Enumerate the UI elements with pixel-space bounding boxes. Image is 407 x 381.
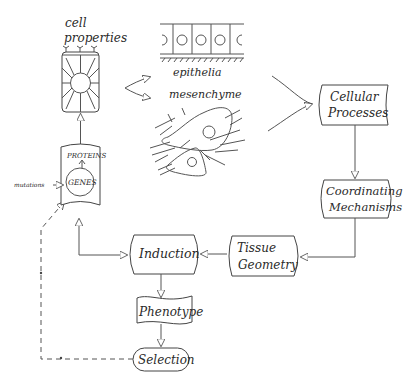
cellular-processes-node: Cellular Processes bbox=[319, 85, 388, 125]
phenotype-node: Phenotype bbox=[137, 296, 203, 324]
epithelia-label: epithelia bbox=[173, 66, 222, 79]
mutations-label: mutations bbox=[14, 181, 44, 188]
induction-label: Induction bbox=[138, 246, 200, 261]
selection-label: Selection bbox=[138, 353, 195, 367]
cellular-processes-label-1: Cellular bbox=[330, 90, 380, 104]
diagram-canvas: cell properties bbox=[0, 0, 407, 381]
edge-coordinating-to-tissue-geometry bbox=[301, 218, 355, 257]
coordinating-mechanisms-label-1: Coordinating bbox=[326, 184, 403, 198]
induction-node: Induction bbox=[130, 235, 200, 274]
genes-label: GENES bbox=[68, 178, 97, 187]
coordinating-mechanisms-node: Coordinating Mechanisms bbox=[321, 180, 403, 218]
epithelia-node: epithelia bbox=[160, 24, 244, 79]
cell-properties-node: cell properties bbox=[62, 16, 127, 112]
proteins-label: PROTEINS bbox=[66, 152, 106, 160]
cell-properties-label-1: cell bbox=[65, 16, 87, 30]
coordinating-mechanisms-label-2: Mechanisms bbox=[328, 200, 402, 214]
mesenchyme-label: mesenchyme bbox=[169, 88, 242, 101]
edges-tissues-to-cellular-processes bbox=[268, 76, 312, 131]
genome-node: PROTEINS GENES mutations bbox=[14, 144, 106, 205]
edge-induction-genes bbox=[79, 219, 127, 255]
tissue-geometry-node: Tissue Geometry bbox=[229, 236, 298, 276]
phenotype-label: Phenotype bbox=[138, 305, 203, 319]
receptor-icons bbox=[63, 46, 97, 52]
mesenchyme-node: mesenchyme bbox=[150, 88, 245, 176]
edges-cell-to-tissues bbox=[125, 77, 150, 98]
selection-node: Selection bbox=[133, 348, 195, 371]
tissue-geometry-label-1: Tissue bbox=[237, 241, 276, 255]
cell-properties-label-2: properties bbox=[64, 31, 127, 45]
tissue-geometry-label-2: Geometry bbox=[238, 258, 298, 272]
edge-selection-to-genes-dashed bbox=[41, 202, 133, 359]
cellular-processes-label-2: Processes bbox=[327, 106, 388, 120]
